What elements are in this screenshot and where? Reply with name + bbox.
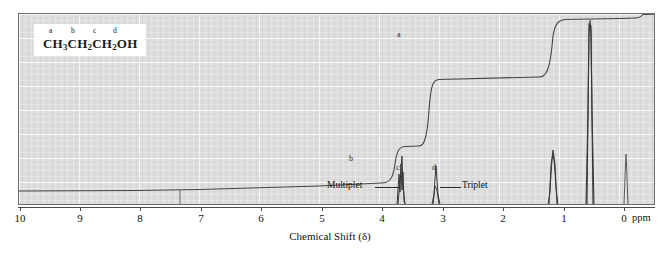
axis-tick-label-6: 6: [258, 212, 264, 224]
axis-tick-2: [503, 207, 504, 211]
axis-tick-8: [140, 207, 141, 211]
axis-tick-label-8: 8: [137, 212, 143, 224]
peak-b-sextet: [548, 150, 558, 205]
axis-tick-3: [443, 207, 444, 211]
proton-letter-row: a b c d: [45, 27, 137, 36]
axis-tick-6: [261, 207, 262, 211]
triplet-leader-line: [440, 187, 461, 188]
axis-tick-9: [80, 207, 81, 211]
peak-letter-a: a: [397, 30, 401, 39]
axis-tick-label-7: 7: [198, 212, 204, 224]
axis-tick-4: [382, 207, 383, 211]
x-axis-line: [18, 207, 655, 208]
axis-tick-7: [201, 207, 202, 211]
peak-a-triplet: [586, 20, 594, 205]
formula-seg-0-text: CH: [43, 36, 63, 51]
multiplet-leader-line: [375, 187, 400, 188]
formula-seg-2-text: CH: [92, 36, 112, 51]
axis-tick-label-2: 2: [500, 212, 506, 224]
axis-tick-label-3: 3: [440, 212, 446, 224]
formula-seg-1-text: CH: [68, 36, 88, 51]
axis-tick-label-4: 4: [379, 212, 385, 224]
compound-structure-label: a b c d CH3CH2CH2OH: [34, 24, 146, 56]
proton-letter-d: d: [113, 27, 117, 35]
nmr-spectrum-figure: a b c d a b c d CH3CH2CH2OH Multiplet Tr…: [0, 0, 670, 253]
peak-letter-b: b: [349, 154, 353, 163]
axis-unit-label: ppm: [632, 212, 651, 223]
proton-letter-b: b: [71, 27, 75, 35]
axis-tick-0: [624, 207, 625, 211]
x-axis-title-wrap: Chemical Shift (δ): [0, 230, 670, 242]
multiplet-annotation-text: Multiplet: [327, 180, 362, 190]
proton-letter-c: c: [93, 27, 96, 35]
axis-tick-10: [20, 207, 21, 211]
axis-tick-label-5: 5: [319, 212, 325, 224]
axis-tick-5: [322, 207, 323, 211]
axis-tick-label-10: 10: [15, 212, 26, 224]
axis-tick-label-0: 0: [621, 212, 627, 224]
peak-letter-d: d: [432, 163, 436, 172]
triplet-annotation-text: Triplet: [462, 180, 488, 190]
axis-tick-label-1: 1: [561, 212, 567, 224]
tms-reference-peak: [624, 154, 628, 205]
proton-letter-a: a: [49, 27, 52, 35]
molecular-formula: CH3CH2CH2OH: [43, 37, 137, 52]
x-axis-title: Chemical Shift (δ): [289, 230, 371, 242]
peak-letter-c: c: [396, 163, 400, 172]
formula-seg-3-text: OH: [117, 36, 138, 51]
axis-tick-1: [564, 207, 565, 211]
axis-tick-label-9: 9: [77, 212, 83, 224]
